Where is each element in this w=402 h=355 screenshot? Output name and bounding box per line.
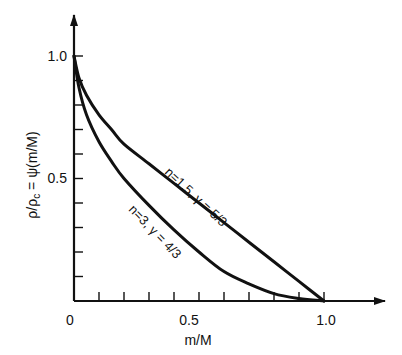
x-tick-label-1.0: 1.0 — [316, 312, 336, 328]
y-axis-title-sub: c — [31, 194, 42, 199]
y-tick-label-0.5: 0.5 — [48, 170, 68, 186]
x-tick-label-0.5: 0.5 — [179, 312, 199, 328]
y-tick-label-1.0: 1.0 — [48, 48, 68, 64]
y-axis-title-rho: ρ/ρ — [24, 199, 40, 219]
y-axis-title-rest: = ψ(m/M) — [24, 131, 40, 193]
curve-n1_5-gamma5_3 — [74, 56, 324, 301]
x-tick-label-0: 0 — [66, 312, 74, 328]
x-axis-title: m/M — [184, 332, 211, 348]
curve-label-n1_5: n=1.5, γ = 5/3 — [162, 164, 230, 229]
curve-n3-gamma4_3 — [74, 56, 324, 301]
y-axis-title: ρ/ρc = ψ(m/M) — [24, 131, 43, 218]
polytrope-density-chart: 0 0.5 1.0 0.5 1.0 m/M n=1.5, γ = 5/3 n=3… — [0, 0, 402, 355]
